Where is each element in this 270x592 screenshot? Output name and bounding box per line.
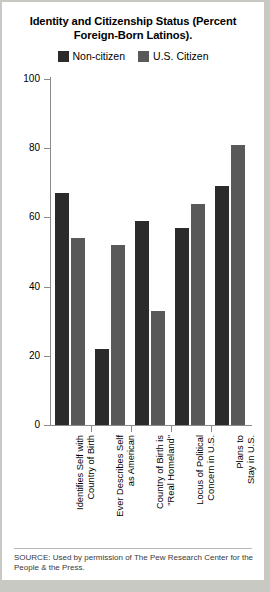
y-tick-mark [44, 287, 50, 288]
y-axis-line [50, 77, 51, 426]
bar-non-citizen [135, 221, 149, 425]
category-label: Plans to Stay in U.S. [235, 435, 265, 539]
y-tick-mark [44, 79, 50, 80]
y-tick-mark [44, 356, 50, 357]
x-tick-mark [171, 426, 172, 432]
y-tick-label: 40 [10, 281, 40, 292]
x-axis-line [50, 425, 252, 426]
x-tick-mark [211, 426, 212, 432]
source-note: SOURCE: Used by permission of The Pew Re… [14, 553, 254, 573]
source-divider [14, 548, 252, 549]
plot-area: 020406080100 Identifies Self with Countr… [2, 2, 264, 580]
category-label: Identifies Self with Country of Birth [75, 435, 105, 539]
bar-us-citizen [231, 145, 245, 425]
chart-card: Identity and Citizenship Status (Percent… [2, 2, 264, 580]
category-label: Locus of Political Concern in U.S. [195, 435, 225, 539]
category-label: Ever Describes Self as American [115, 435, 145, 539]
y-tick-label: 80 [10, 142, 40, 153]
bar-us-citizen [71, 238, 85, 425]
y-tick-label: 0 [10, 419, 40, 430]
bar-non-citizen [215, 186, 229, 425]
y-tick-label: 60 [10, 211, 40, 222]
bar-non-citizen [55, 193, 69, 425]
y-tick-mark [44, 217, 50, 218]
category-label: Country of Birth is "Real Homeland" [155, 435, 185, 539]
bar-non-citizen [95, 349, 109, 425]
bar-us-citizen [111, 245, 125, 425]
bar-non-citizen [175, 228, 189, 425]
x-tick-mark [91, 426, 92, 432]
y-tick-label: 20 [10, 350, 40, 361]
y-tick-mark [44, 148, 50, 149]
bar-us-citizen [151, 311, 165, 425]
bar-us-citizen [191, 204, 205, 425]
x-tick-mark [131, 426, 132, 432]
y-tick-mark [44, 425, 50, 426]
y-tick-label: 100 [10, 73, 40, 84]
